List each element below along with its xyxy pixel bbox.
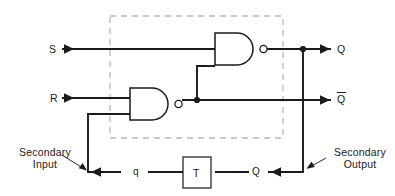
output-label-q-bar: Q — [337, 92, 345, 105]
annotation-secondary-input-line2: Input — [6, 158, 84, 170]
secondary-output-wire — [268, 49, 303, 177]
secondary-output-leader-line — [307, 158, 327, 169]
s-input-wire — [62, 44, 215, 54]
input-label-r: R — [50, 92, 58, 104]
cross-couple-wire-qbar-to-top-gate — [197, 66, 206, 100]
qbar-output-wire — [182, 95, 331, 105]
nand-gate-bottom — [130, 88, 182, 120]
secondary-output-leader-arrow-icon — [307, 162, 315, 169]
s-input-arrow-icon — [64, 44, 74, 54]
secondary-input-arrow-icon — [91, 167, 101, 177]
feedback-label-q-upper: Q — [252, 166, 260, 178]
qbar-output-arrow-icon — [320, 95, 330, 105]
r-input-wire — [62, 93, 130, 103]
output-label-q-bar-text: Q — [337, 92, 345, 105]
secondary-output-arrow-icon — [271, 167, 281, 177]
secondary-input-wire — [88, 114, 121, 177]
logic-circuit-diagram: S R Q Q q Q T Secondary Input Secondary … — [0, 0, 395, 196]
nand-gate-top — [215, 33, 267, 65]
feedback-label-q-lower: q — [133, 166, 139, 178]
input-label-s: S — [49, 43, 56, 55]
annotation-secondary-output-line2: Output — [326, 158, 394, 170]
annotation-secondary-output: Secondary Output — [326, 146, 394, 170]
delay-block-label-t: T — [193, 167, 200, 179]
annotation-secondary-input-line1: Secondary — [6, 146, 84, 158]
output-label-q: Q — [337, 43, 345, 55]
nand-bottom-inversion-bubble-icon — [175, 100, 182, 107]
nand-top-inversion-bubble-icon — [260, 45, 267, 52]
annotation-secondary-output-line1: Secondary — [326, 146, 394, 158]
q-output-wire — [267, 44, 331, 54]
q-output-arrow-icon — [320, 44, 330, 54]
r-input-arrow-icon — [64, 93, 74, 103]
annotation-secondary-input: Secondary Input — [6, 146, 84, 170]
